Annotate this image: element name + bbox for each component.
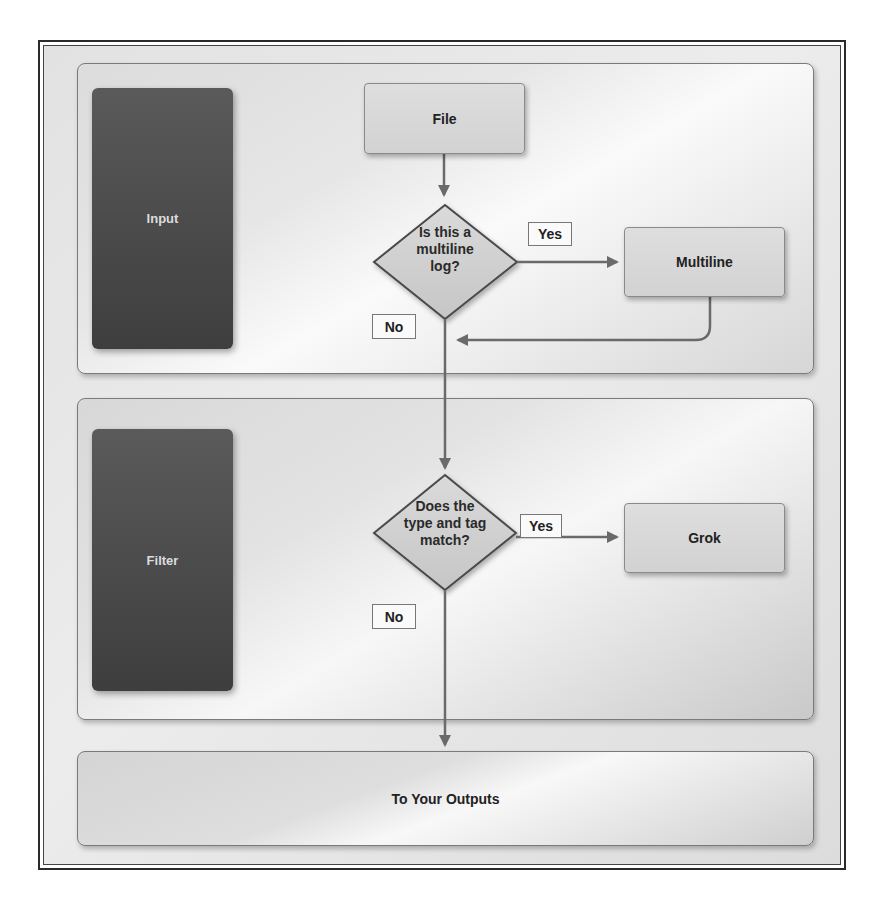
- output-lane: To Your Outputs: [77, 751, 814, 846]
- decision-multiline-text: Is this a multiline log?: [390, 224, 500, 275]
- decision-match-line-1: Does the: [380, 498, 510, 515]
- grok-node-label: Grok: [688, 530, 721, 546]
- decision-multiline-line-3: log?: [390, 258, 500, 275]
- grok-node: Grok: [624, 503, 785, 573]
- edge-label-yes-multiline: Yes: [528, 222, 572, 246]
- file-node-label: File: [432, 111, 456, 127]
- decision-multiline-line-2: multiline: [390, 241, 500, 258]
- edge-label-no-multiline: No: [372, 314, 416, 339]
- filter-lane-label: Filter: [92, 429, 233, 691]
- input-lane-label-text: Input: [147, 211, 179, 226]
- edge-label-yes-match: Yes: [520, 514, 562, 538]
- decision-match-line-3: match?: [380, 532, 510, 549]
- decision-multiline-line-1: Is this a: [390, 224, 500, 241]
- decision-match-line-2: type and tag: [380, 515, 510, 532]
- multiline-node-label: Multiline: [676, 254, 733, 270]
- input-lane-label: Input: [92, 88, 233, 349]
- multiline-node: Multiline: [624, 227, 785, 297]
- decision-match-text: Does the type and tag match?: [380, 498, 510, 549]
- output-lane-label: To Your Outputs: [391, 791, 499, 807]
- edge-label-no-match: No: [372, 604, 416, 629]
- file-node: File: [364, 83, 525, 154]
- filter-lane-label-text: Filter: [147, 553, 179, 568]
